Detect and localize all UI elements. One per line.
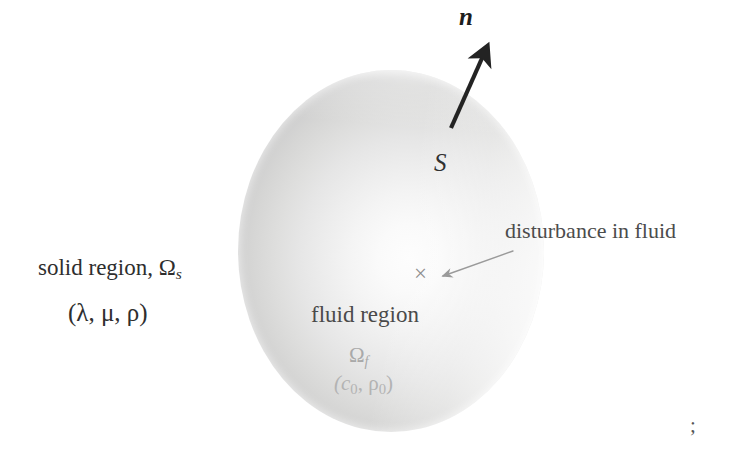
fluid-omega-subscript: f (365, 353, 369, 369)
normal-vector-label: n (459, 4, 473, 30)
fluid-region-omega-symbol: Ωf (349, 344, 369, 369)
figure-canvas: × n S disturbance in fluid solid region,… (0, 0, 729, 458)
corner-punctuation-mark: ; (690, 414, 696, 436)
solid-region-subscript: s (176, 265, 182, 282)
fluid-region-label: fluid region (311, 303, 419, 327)
fluid-region-parameters: (c0, ρ0) (334, 372, 393, 397)
fluid-param-separator: , ρ (358, 371, 379, 395)
fluid-param-close: ) (386, 371, 393, 395)
disturbance-annotation-label: disturbance in fluid (505, 219, 676, 242)
solid-region-label: solid region, Ωs (38, 256, 182, 282)
fluid-param-c: (c (334, 371, 350, 395)
fluid-param-rho-subscript: 0 (379, 381, 386, 397)
disturbance-point-marker: × (414, 262, 427, 286)
solid-region-text: solid region, Ω (38, 255, 176, 280)
fluid-omega-text: Ω (349, 343, 365, 367)
surface-label: S (434, 150, 447, 176)
solid-region-parameters: (λ, μ, ρ) (68, 300, 148, 326)
fluid-param-c-subscript: 0 (350, 381, 357, 397)
